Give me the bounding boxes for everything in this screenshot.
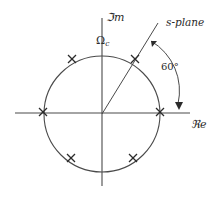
imaginary-axis-label: ℑm (106, 12, 124, 23)
pole-marker-x (68, 55, 76, 63)
arc-arrowhead-end-icon (175, 102, 183, 110)
pole-marker-x (67, 154, 75, 162)
pole-marker-x (39, 108, 47, 116)
angle-label: 60° (161, 62, 179, 72)
s-plane-diagram (0, 0, 220, 197)
real-axis-label: ℜe (191, 119, 207, 130)
s-plane-figure: ℑm ℜe Ωc s-plane 60° (0, 0, 220, 197)
s-plane-label: s-plane (166, 17, 204, 28)
pole-marker-x (131, 55, 139, 63)
cutoff-frequency-label: Ωc (96, 35, 109, 48)
omega-symbol: Ω (96, 34, 105, 47)
angle-arc (151, 41, 179, 104)
omega-subscript: c (105, 39, 109, 48)
radial-line-60deg (102, 23, 158, 114)
pole-marker-x (129, 154, 137, 162)
